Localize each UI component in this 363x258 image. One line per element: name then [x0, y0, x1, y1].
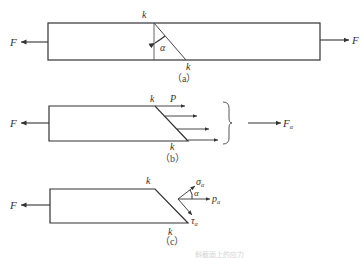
label-k-bottom: k	[186, 61, 191, 72]
label-k-top-c: k	[146, 175, 151, 186]
label-F-left-b: F	[9, 117, 17, 129]
label-F-right: F	[351, 34, 359, 46]
label-p-alpha: pα	[211, 193, 221, 205]
brace	[223, 102, 232, 144]
bar-b	[49, 106, 188, 141]
panel-a: F F k k α （a）	[9, 9, 359, 84]
bar-c	[50, 189, 188, 223]
label-alpha-c: α	[194, 188, 199, 198]
label-alpha: α	[160, 42, 166, 53]
label-P: P	[169, 93, 176, 104]
label-k-top: k	[142, 9, 147, 20]
label-F-alpha: Fα	[282, 117, 294, 130]
figure-canvas: F F k k α （a） F k P k Fα （b） F k k σα α …	[0, 0, 363, 258]
caption-c: （c）	[160, 236, 184, 247]
bar-a	[48, 23, 320, 60]
footer-caption: 斜截面上的应力	[195, 250, 244, 258]
panel-b: F k P k Fα （b）	[9, 93, 294, 164]
caption-b: （b）	[160, 153, 185, 164]
label-sigma-alpha: σα	[196, 176, 205, 188]
label-F-left-c: F	[9, 199, 17, 211]
angle-arc-c	[190, 190, 192, 199]
label-tau-alpha: τα	[191, 215, 199, 227]
label-F-left: F	[9, 36, 17, 48]
tau-arrow	[178, 199, 192, 215]
label-k-bottom-b: k	[170, 141, 175, 152]
oblique-section	[154, 23, 186, 60]
panel-c: F k k σα α pα τα （c）	[9, 175, 221, 247]
caption-a: （a）	[172, 73, 196, 84]
label-k-top-b: k	[150, 93, 155, 104]
